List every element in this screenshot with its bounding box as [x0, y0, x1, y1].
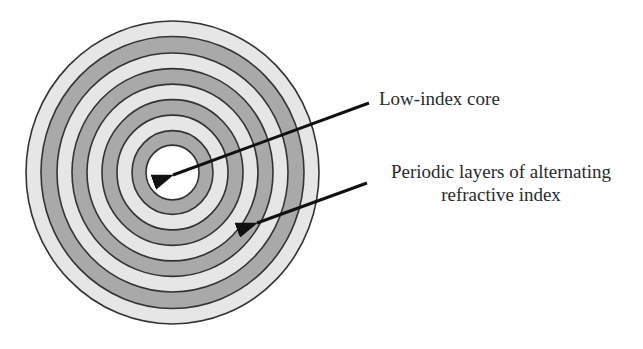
low-index-core [146, 145, 199, 200]
concentric-rings [26, 21, 319, 324]
low-index-core-label: Low-index core [379, 87, 500, 110]
periodic-layers-label: Periodic layers of alternating refractiv… [376, 160, 626, 206]
periodic-layers-label-line1: Periodic layers of alternating [376, 160, 626, 183]
periodic-layers-label-line2: refractive index [376, 183, 626, 206]
